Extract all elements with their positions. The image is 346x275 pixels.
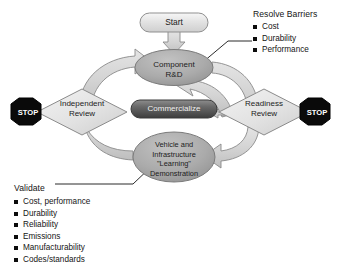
callout-resolve-barriers-list: Cost Durability Performance [253,21,317,56]
list-item: Durability [253,33,317,45]
callout-resolve-barriers: Resolve Barriers Cost Durability Perform… [253,9,317,56]
callout-validate-title: Validate [14,183,90,194]
list-item: Performance [253,44,317,56]
list-item: Codes/standards [14,254,90,266]
node-component-rd[interactable] [135,50,213,86]
node-independent-review[interactable] [37,89,127,135]
list-item: Cost, performance [14,196,90,208]
list-item: Durability [14,208,90,220]
node-start[interactable] [140,13,208,32]
node-vehicle-demo[interactable] [133,132,215,182]
list-item: Cost [253,21,317,33]
callout-validate-list: Cost, performance Durability Reliability… [14,196,90,266]
node-commercialize[interactable] [131,100,217,118]
node-stop-left[interactable] [11,98,41,125]
list-item: Manufacturability [14,242,90,254]
leader-line-resolve-barriers [203,41,252,62]
callout-validate: Validate Cost, performance Durability Re… [14,183,90,266]
callout-resolve-barriers-title: Resolve Barriers [253,9,317,20]
list-item: Emissions [14,231,90,243]
node-readiness-review[interactable] [219,89,309,135]
list-item: Reliability [14,219,90,231]
node-stop-right[interactable] [300,98,330,125]
